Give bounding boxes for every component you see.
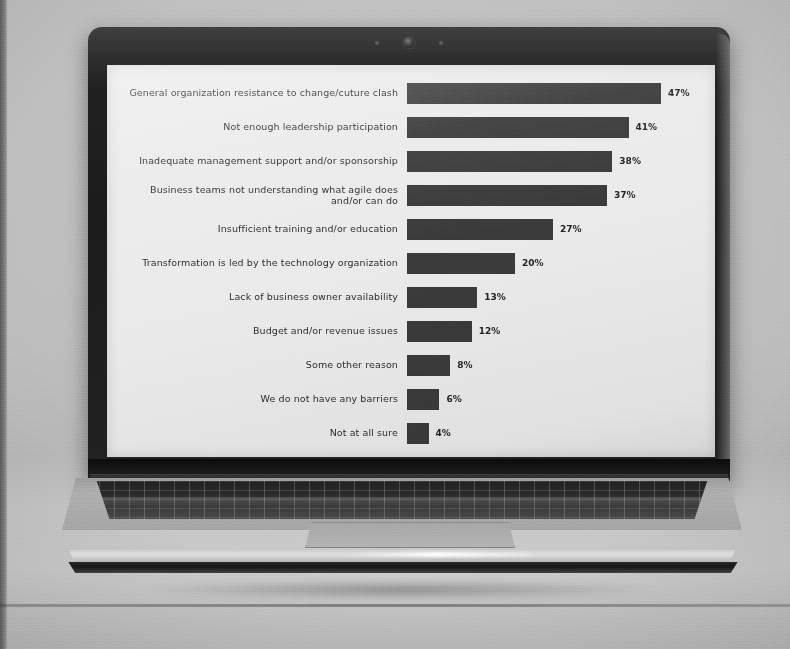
chart-row: Insufficient training and/or education27… <box>107 213 715 245</box>
photo-left-edge <box>0 0 7 649</box>
bar-track: 20% <box>407 247 715 279</box>
microphone-icon <box>375 41 379 45</box>
bar-category-label: Lack of business owner availability <box>107 291 407 303</box>
bezel-top <box>88 36 730 50</box>
chart-row: General organization resistance to chang… <box>107 77 715 109</box>
camera-icon <box>404 37 415 48</box>
laptop-base <box>62 478 742 586</box>
bar-category-label: We do not have any barriers <box>107 393 407 405</box>
bar-category-label: Business teams not understanding what ag… <box>107 184 407 207</box>
bar-category-label: Some other reason <box>107 359 407 371</box>
bar-category-label: Not enough leadership participation <box>107 121 407 133</box>
chart-row: Transformation is led by the technology … <box>107 247 715 279</box>
bar-track: 41% <box>407 111 715 143</box>
ambient-light-sensor-icon <box>439 41 443 45</box>
bar-value-label: 41% <box>636 122 658 132</box>
bar-value-label: 27% <box>560 224 582 234</box>
bar-value-label: 8% <box>457 360 472 370</box>
bar <box>407 287 477 308</box>
lid-right-edge <box>716 33 730 478</box>
bar <box>407 185 607 206</box>
bar-value-label: 47% <box>668 88 690 98</box>
bar-value-label: 37% <box>614 190 636 200</box>
bar <box>407 253 515 274</box>
chart-row: Budget and/or revenue issues12% <box>107 315 715 347</box>
bar-track: 4% <box>407 417 715 449</box>
base-underside-shadow <box>58 562 748 573</box>
laptop-lid: General organization resistance to chang… <box>88 27 730 482</box>
bar-value-label: 20% <box>522 258 544 268</box>
bar-track: 6% <box>407 383 715 415</box>
keyboard[interactable] <box>84 481 720 519</box>
bar-category-label: Transformation is led by the technology … <box>107 257 407 269</box>
bar <box>407 219 553 240</box>
chart-row: Not at all sure4% <box>107 417 715 449</box>
bar-track: 13% <box>407 281 715 313</box>
bar <box>407 355 450 376</box>
bar-category-label: Inadequate management support and/or spo… <box>107 155 407 167</box>
bar-track: 12% <box>407 315 715 347</box>
bar <box>407 389 439 410</box>
bar-value-label: 38% <box>619 156 641 166</box>
bar <box>407 321 472 342</box>
chart-row: Business teams not understanding what ag… <box>107 179 715 211</box>
keyboard-sheen <box>84 497 720 507</box>
bar-category-label: Budget and/or revenue issues <box>107 325 407 337</box>
bar <box>407 83 661 104</box>
trackpad[interactable] <box>305 522 515 548</box>
bar-value-label: 13% <box>484 292 506 302</box>
chart-row: We do not have any barriers6% <box>107 383 715 415</box>
bar-track: 27% <box>407 213 715 245</box>
bar-track: 8% <box>407 349 715 381</box>
bar-chart: General organization resistance to chang… <box>107 65 715 457</box>
chart-row: Inadequate management support and/or spo… <box>107 145 715 177</box>
bar <box>407 151 612 172</box>
bar <box>407 423 429 444</box>
bar <box>407 117 629 138</box>
bar-category-label: Not at all sure <box>107 427 407 439</box>
bar-value-label: 12% <box>479 326 501 336</box>
bar-track: 37% <box>407 179 715 211</box>
bar-value-label: 4% <box>436 428 451 438</box>
front-lip-highlight <box>342 552 532 557</box>
bar-category-label: Insufficient training and/or education <box>107 223 407 235</box>
bar-value-label: 6% <box>446 394 461 404</box>
bar-track: 47% <box>407 77 715 109</box>
chart-row: Lack of business owner availability13% <box>107 281 715 313</box>
laptop-photograph: General organization resistance to chang… <box>0 0 790 649</box>
chart-row: Not enough leadership participation41% <box>107 111 715 143</box>
bar-category-label: General organization resistance to chang… <box>107 87 407 99</box>
chart-row: Some other reason8% <box>107 349 715 381</box>
cast-shadow <box>40 582 760 608</box>
bar-track: 38% <box>407 145 715 177</box>
laptop-screen: General organization resistance to chang… <box>107 65 715 457</box>
